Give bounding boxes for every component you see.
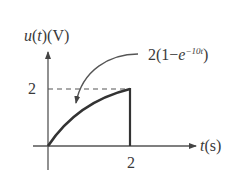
exponential-curve — [48, 89, 130, 146]
annotation-label: 2(1−e−10t) — [148, 47, 208, 63]
y-axis-label: u(t)(V) — [24, 28, 69, 44]
x-tick-label: 2 — [127, 155, 135, 171]
y-tick-label: 2 — [28, 81, 36, 97]
x-axis-label: t(s) — [200, 138, 221, 154]
